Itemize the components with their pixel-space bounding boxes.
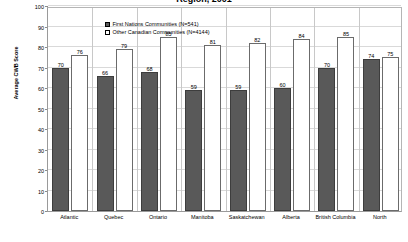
bar-value-label: 68: [146, 66, 152, 72]
legend-label-first-nations: First Nations Communities (N=541): [113, 20, 199, 28]
bar-value-label: 76: [77, 49, 83, 55]
bar-group: 7085: [314, 8, 358, 211]
legend-label-other-canadian: Other Canadian Communities (N=4144): [113, 28, 210, 36]
gridline: [48, 5, 401, 6]
bar: 85: [337, 37, 354, 211]
bar: 84: [293, 39, 310, 211]
bar-value-label: 59: [235, 84, 241, 90]
bar: 75: [382, 57, 399, 211]
bar-value-label: 85: [343, 31, 349, 37]
legend-swatch-first-nations: [105, 22, 110, 27]
bar-group: 5982: [226, 8, 270, 211]
bar-group: 6084: [270, 8, 314, 211]
y-tick-label: 0: [26, 209, 44, 215]
bar-value-label: 70: [324, 62, 330, 68]
bar: 66: [97, 76, 114, 211]
bar-group: 5981: [181, 8, 225, 211]
bar: 74: [363, 59, 380, 211]
legend-item: First Nations Communities (N=541): [105, 20, 210, 28]
y-tick-label: 40: [26, 127, 44, 133]
bar-group: 7475: [359, 8, 403, 211]
x-axis-category-label: Saskatchewan: [225, 214, 269, 221]
bar: 59: [185, 90, 202, 211]
x-axis-category-label: Manitoba: [180, 214, 224, 221]
bar-value-label: 66: [102, 70, 108, 76]
group-separator: [92, 8, 93, 211]
bar: 70: [52, 68, 69, 212]
bar-value-label: 70: [58, 62, 64, 68]
bar-value-label: 75: [387, 51, 393, 57]
bar: 85: [160, 37, 177, 211]
group-separator: [181, 8, 182, 211]
x-axis-category-label: Atlantic: [47, 214, 91, 221]
bar-group: 6885: [137, 8, 181, 211]
y-tick-label: 90: [26, 25, 44, 31]
y-tick-label: 70: [26, 66, 44, 72]
group-separator: [359, 8, 360, 211]
bar: 79: [116, 49, 133, 211]
bar-groups: 70766679688559815982608470857475: [48, 8, 401, 211]
bar-value-label: 74: [368, 53, 374, 59]
bar: 70: [318, 68, 335, 212]
bar-value-label: 59: [191, 84, 197, 90]
bar: 81: [204, 45, 221, 211]
y-tick-label: 60: [26, 86, 44, 92]
x-axis-category-label: Ontario: [136, 214, 180, 221]
y-tick-label: 80: [26, 45, 44, 51]
x-axis-category-label: Alberta: [269, 214, 313, 221]
group-separator: [314, 8, 315, 211]
bar-value-label: 79: [121, 43, 127, 49]
plot-area: 70766679688559815982608470857475 First N…: [47, 7, 402, 212]
y-axis-title: Average CWB Score: [13, 28, 19, 118]
legend-swatch-other-canadian: [105, 30, 110, 35]
bar-group: 6679: [92, 8, 136, 211]
bar-value-label: 82: [254, 37, 260, 43]
chart-figure: Region, 2001 Average CWB Score 010203040…: [0, 0, 408, 242]
y-tick-label: 20: [26, 168, 44, 174]
y-tick-label: 100: [26, 4, 44, 10]
legend-item: Other Canadian Communities (N=4144): [105, 28, 210, 36]
bar-value-label: 84: [299, 33, 305, 39]
chart-legend: First Nations Communities (N=541) Other …: [105, 20, 210, 36]
x-axis-category-label: Quebec: [91, 214, 135, 221]
group-separator: [226, 8, 227, 211]
group-separator: [270, 8, 271, 211]
bar-value-label: 60: [280, 82, 286, 88]
bar: 60: [274, 88, 291, 211]
y-tick-label: 30: [26, 148, 44, 154]
bar: 82: [249, 43, 266, 211]
x-axis-labels: AtlanticQuebecOntarioManitobaSaskatchewa…: [47, 214, 402, 242]
y-tick-label: 50: [26, 107, 44, 113]
bar-group: 7076: [48, 8, 92, 211]
bar: 68: [141, 72, 158, 211]
y-axis-ticks: 0102030405060708090100: [24, 7, 44, 212]
y-tick-label: 10: [26, 189, 44, 195]
group-separator: [137, 8, 138, 211]
x-axis-category-label: British Columbia: [313, 214, 357, 221]
x-axis-category-label: North: [358, 214, 402, 221]
bar-value-label: 81: [210, 39, 216, 45]
bar: 59: [230, 90, 247, 211]
bar: 76: [71, 55, 88, 211]
